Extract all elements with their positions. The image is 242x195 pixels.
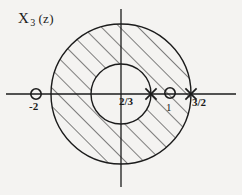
tick-label-two-thirds: 2/3 xyxy=(119,95,133,107)
figure-title-argument: (z) xyxy=(36,11,53,26)
tick-label-neg2: -2 xyxy=(29,100,38,112)
figure-title-base: X xyxy=(18,10,29,26)
tick-label-one: 1 xyxy=(166,101,172,113)
figure-title: X3(z) xyxy=(18,10,54,28)
pole-zero-figure: X3(z) -2 2/3 1 3/2 xyxy=(0,0,242,195)
tick-label-three-halves: 3/2 xyxy=(192,96,206,108)
